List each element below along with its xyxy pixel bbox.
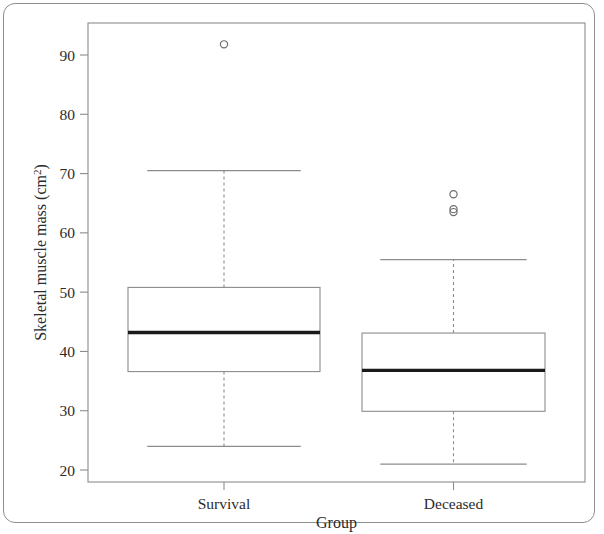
y-tick-label: 60 (60, 224, 76, 241)
boxplot-canvas: 2030405060708090 SurvivalDeceased GroupS… (0, 0, 604, 534)
axis-titles: GroupSkeletal muscle mass (cm2) (31, 164, 357, 532)
plot-panel (88, 23, 585, 482)
y-tick-label: 50 (60, 284, 76, 301)
outlier-point (220, 41, 227, 48)
boxplot-figure: 2030405060708090 SurvivalDeceased GroupS… (0, 0, 604, 534)
y-axis-tick-labels: 2030405060708090 (60, 47, 76, 479)
x-axis-category-labels: SurvivalDeceased (198, 495, 484, 512)
box-plots (128, 41, 545, 464)
y-tick-label: 80 (60, 106, 76, 123)
x-category-label-deceased: Deceased (424, 495, 484, 512)
outlier-point (450, 191, 457, 198)
x-axis-ticks (224, 482, 454, 490)
box-body (128, 287, 320, 371)
y-tick-label: 40 (60, 343, 76, 360)
box-plot-deceased (362, 191, 545, 464)
box-plot-survival (128, 41, 320, 447)
y-tick-label: 30 (60, 402, 76, 419)
y-tick-label: 20 (60, 462, 76, 479)
y-tick-label: 70 (60, 165, 76, 182)
x-category-label-survival: Survival (198, 495, 251, 512)
box-body (362, 333, 545, 411)
y-axis-ticks (80, 55, 88, 470)
x-axis-title: Group (316, 514, 357, 532)
y-tick-label: 90 (60, 47, 76, 64)
y-axis-title: Skeletal muscle mass (cm2) (31, 164, 50, 341)
